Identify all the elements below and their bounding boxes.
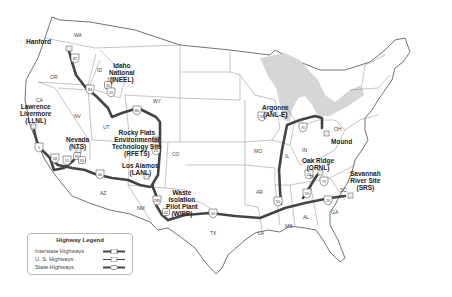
site-label-lanl: Los Alamos (LANL) — [122, 162, 159, 176]
site-label-inel: Idaho National (INEEL) — [109, 62, 135, 83]
state-label: OH — [334, 126, 342, 132]
svg-text:84: 84 — [88, 87, 93, 92]
us-shield-icon: 93 — [79, 157, 86, 164]
state-label: AL — [303, 214, 309, 220]
state-label: UT — [103, 124, 110, 130]
state-label: OR — [50, 74, 58, 80]
legend-title: Highway Legend — [28, 237, 132, 243]
svg-text:40: 40 — [98, 172, 103, 177]
state-label: NV — [74, 113, 81, 119]
site-label-llnl: Lawrence Livermore (LLNL) — [20, 103, 51, 124]
interstate-shield-icon: 20 — [209, 209, 217, 218]
interstate-shield-icon: 59 — [303, 189, 311, 198]
interstate-shield-icon: 70 — [299, 123, 307, 132]
state-label: WA — [74, 32, 82, 38]
interstate-shield-icon: 15 — [63, 156, 71, 165]
svg-text:15: 15 — [65, 158, 70, 163]
us-highway-symbol-icon — [103, 257, 125, 262]
svg-text:20: 20 — [106, 83, 111, 88]
state-label: NM — [137, 205, 145, 211]
interstate-symbol-icon — [103, 249, 125, 254]
site-marker-mound — [324, 131, 329, 136]
state-label: CA — [36, 97, 43, 103]
site-label-rfets: Rocky Flats Environmental Technology Sit… — [112, 129, 162, 157]
interstate-shield-icon: 5 — [35, 143, 43, 152]
state-label: TN — [309, 174, 316, 180]
svg-text:59: 59 — [305, 191, 310, 196]
state-label: TX — [210, 230, 216, 236]
svg-text:93: 93 — [80, 158, 85, 163]
svg-text:55: 55 — [276, 199, 281, 204]
state-label: WY — [153, 98, 161, 104]
state-label: GA — [331, 209, 338, 215]
site-label-nts: Nevada (NTS) — [66, 136, 89, 150]
svg-text:82: 82 — [73, 56, 78, 61]
legend-item-us: U. S. Highways — [35, 256, 73, 262]
state-label: IL — [285, 153, 289, 159]
site-label-ornl: Oak Ridge (ORNL) — [302, 157, 334, 171]
state-label: LA — [258, 230, 264, 236]
svg-text:20: 20 — [211, 211, 216, 216]
interstate-shield-icon: 58 — [51, 154, 59, 163]
interstate-shield-icon: 20 — [324, 196, 332, 205]
state-label: SC — [340, 187, 347, 193]
site-marker-srs — [348, 193, 353, 198]
site-marker-llnl — [31, 124, 36, 129]
interstate-shield-icon: 75 — [320, 177, 328, 186]
state-label: AR — [256, 189, 263, 195]
interstate-shield-icon: 285 — [153, 196, 161, 205]
state-label: IN — [302, 147, 307, 153]
site-label-anl: Argonne (ANL-E) — [262, 104, 289, 118]
svg-text:58: 58 — [53, 156, 58, 161]
legend-item-interstate: Interstate Highways — [35, 248, 84, 254]
state-label: CO — [172, 151, 180, 157]
svg-text:15: 15 — [109, 90, 114, 95]
svg-text:80: 80 — [135, 108, 140, 113]
site-label-wipp: Waste Isolation Pilot Plant (WIPP) — [166, 189, 198, 217]
highway-legend: Highway Legend Interstate Highways U. S.… — [27, 233, 133, 275]
state-label: MS — [285, 223, 293, 229]
site-label-srs: Savannah River Site (SRS) — [350, 170, 381, 191]
state-label: ID — [97, 67, 102, 73]
legend-item-state: State Highways — [35, 264, 74, 270]
svg-text:20: 20 — [326, 198, 331, 203]
state-label: AZ — [100, 190, 106, 196]
svg-text:70: 70 — [301, 125, 306, 130]
interstate-shield-icon: 84 — [86, 85, 94, 94]
interstate-shield-icon: 80 — [133, 106, 141, 115]
interstate-shield-icon: 55 — [274, 197, 282, 206]
svg-text:285: 285 — [154, 198, 161, 203]
state-highway-symbol-icon — [103, 265, 125, 270]
site-marker-hanford — [66, 46, 72, 51]
site-label-hanford: Hanford — [26, 38, 51, 45]
state-label: MO — [254, 148, 262, 154]
svg-text:75: 75 — [322, 179, 327, 184]
interstate-shield-icon: 40 — [96, 170, 104, 179]
interstate-shield-icon: 82 — [71, 54, 79, 63]
site-label-mound: Mound — [331, 138, 352, 145]
interstate-shield-icon: 15 — [107, 88, 115, 97]
